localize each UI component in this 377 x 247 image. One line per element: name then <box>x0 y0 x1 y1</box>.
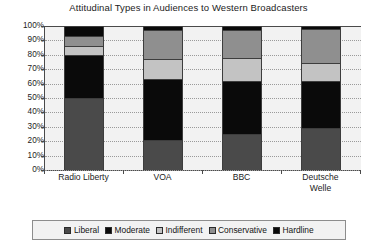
x-axis-label-line: Radio Liberty <box>44 172 123 183</box>
gridline <box>45 170 361 171</box>
y-axis-tick-label: 100% <box>4 22 44 30</box>
bar-series-layer <box>44 26 360 170</box>
legend-swatch-icon <box>273 227 280 234</box>
y-axis-tick-label: 60% <box>4 80 44 88</box>
bar-slot <box>123 26 202 170</box>
stacked-bar[interactable] <box>222 26 262 170</box>
bar-segment-conservative[interactable] <box>65 36 103 46</box>
x-axis-label-line: VOA <box>123 172 202 183</box>
chart-container: Attitudinal Types in Audiences to Wester… <box>0 0 377 247</box>
bar-slot <box>281 26 360 170</box>
legend-item-liberal[interactable]: Liberal <box>64 226 99 235</box>
bar-segment-moderate[interactable] <box>223 81 261 134</box>
bar-segment-liberal[interactable] <box>223 134 261 170</box>
y-axis-tick-label: 30% <box>4 123 44 131</box>
bar-slot <box>202 26 281 170</box>
legend-item-label: Hardline <box>282 226 313 235</box>
x-axis-category-label: DeutscheWelle <box>281 172 360 200</box>
y-axis-tick-label: 20% <box>4 137 44 145</box>
bar-segment-liberal[interactable] <box>65 98 103 170</box>
x-axis-label-line: Deutsche <box>281 172 360 183</box>
bar-segment-conservative[interactable] <box>144 30 182 59</box>
bar-slot <box>44 26 123 170</box>
y-axis-tick-label: 90% <box>4 36 44 44</box>
x-axis-category-label: VOA <box>123 172 202 200</box>
legend-item-label: Liberal <box>74 226 99 235</box>
bar-segment-indifferent[interactable] <box>223 58 261 81</box>
chart-title: Attitudinal Types in Audiences to Wester… <box>0 2 377 14</box>
legend-item-label: Conservative <box>218 226 267 235</box>
legend-item-indifferent[interactable]: Indifferent <box>156 226 203 235</box>
legend-item-conservative[interactable]: Conservative <box>209 226 267 235</box>
bar-segment-moderate[interactable] <box>144 79 182 139</box>
bar-segment-indifferent[interactable] <box>302 63 340 80</box>
y-axis-tick-label: 80% <box>4 51 44 59</box>
stacked-bar[interactable] <box>301 26 341 170</box>
bar-segment-conservative[interactable] <box>223 30 261 57</box>
legend-item-label: Moderate <box>115 226 150 235</box>
legend-swatch-icon <box>209 227 216 234</box>
bar-segment-moderate[interactable] <box>302 81 340 129</box>
x-axis-label-line: BBC <box>202 172 281 183</box>
x-axis-label-line: Welle <box>281 183 360 194</box>
y-axis: 100%90%80%70%60%50%40%30%20%10%0% <box>0 26 44 172</box>
y-axis-tick-label: 0% <box>4 166 44 174</box>
bar-segment-liberal[interactable] <box>302 128 340 170</box>
legend-item-label: Indifferent <box>165 226 202 235</box>
bar-segment-hardline[interactable] <box>65 26 103 36</box>
y-axis-tick-label: 70% <box>4 65 44 73</box>
bar-segment-conservative[interactable] <box>302 29 340 64</box>
bar-segment-liberal[interactable] <box>144 140 182 170</box>
stacked-bar[interactable] <box>143 26 183 170</box>
legend-swatch-icon <box>105 227 112 234</box>
legend-item-moderate[interactable]: Moderate <box>105 226 150 235</box>
bar-segment-indifferent[interactable] <box>65 46 103 55</box>
x-axis-category-label: BBC <box>202 172 281 200</box>
bar-segment-moderate[interactable] <box>65 55 103 98</box>
legend-swatch-icon <box>64 227 71 234</box>
x-axis-category-label: Radio Liberty <box>44 172 123 200</box>
bar-segment-indifferent[interactable] <box>144 59 182 79</box>
x-axis-tick-mark <box>360 170 361 174</box>
legend-swatch-icon <box>156 227 163 234</box>
legend-item-hardline[interactable]: Hardline <box>273 226 314 235</box>
chart-legend: LiberalModerateIndifferentConservativeHa… <box>32 220 346 240</box>
x-axis: Radio LibertyVOABBCDeutscheWelle <box>44 172 360 200</box>
y-axis-tick-label: 40% <box>4 108 44 116</box>
stacked-bar[interactable] <box>64 26 104 170</box>
y-axis-tick-label: 50% <box>4 94 44 102</box>
y-axis-tick-label: 10% <box>4 152 44 160</box>
